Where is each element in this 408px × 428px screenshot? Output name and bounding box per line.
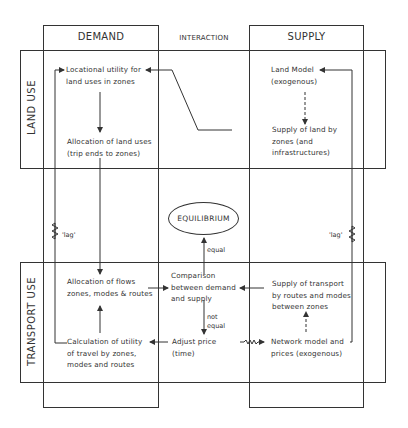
label-equal: equal (207, 246, 225, 254)
label-lag-left: 'lag' (62, 231, 76, 239)
node-equilibrium: EQUILIBRIUM (168, 202, 239, 235)
label-lag-right: 'lag' (329, 231, 343, 239)
node-calculation-of-utility: Calculation of utility of travel by zone… (67, 336, 142, 371)
node-allocation-of-flows: Allocation of flows zones, modes & route… (67, 276, 153, 299)
node-network-model: Network model and prices (exogenous) (271, 336, 344, 359)
node-supply-of-land: Supply of land by zones (and infrastruct… (272, 124, 337, 159)
node-comparison: Comparison between demand and supply (171, 270, 236, 305)
node-allocation-land-uses: Allocation of land uses (trip ends to zo… (67, 136, 152, 159)
node-locational-utility: Locational utility for land uses in zone… (66, 64, 141, 87)
node-land-model: Land Model (exogenous) (271, 64, 317, 87)
label-not-equal: not equal (207, 313, 225, 331)
node-supply-of-transport: Supply of transport by routes and modes … (272, 278, 351, 313)
node-adjust-price: Adjust price (time) (172, 336, 216, 359)
